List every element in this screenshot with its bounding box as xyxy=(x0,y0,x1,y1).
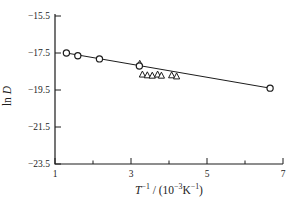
arrhenius-plot-figure: −15.5−17.5−19.5−21.5−23.51357 ln D T−1 /… xyxy=(0,0,291,208)
y-axis-tick-label: −21.5 xyxy=(28,122,50,132)
x-axis-tick-label: 3 xyxy=(129,169,134,179)
y-axis-tick-label: −15.5 xyxy=(28,11,50,21)
y-axis-title: ln D xyxy=(1,66,13,126)
axes-spine xyxy=(55,14,283,164)
data-point-circle xyxy=(136,63,142,69)
x-axis-tick-label: 5 xyxy=(205,169,210,179)
y-axis-title-part: D xyxy=(1,86,13,94)
y-axis-tick-label: −17.5 xyxy=(28,48,50,58)
data-point-circle xyxy=(96,56,102,62)
y-axis-title-part: ln xyxy=(1,94,13,106)
x-axis-tick-label: 7 xyxy=(281,169,286,179)
chart-canvas: −15.5−17.5−19.5−21.5−23.51357 xyxy=(0,0,291,208)
x-axis-title-part: K xyxy=(182,184,190,196)
x-axis-title-part: −1 xyxy=(142,182,150,191)
data-point-triangle xyxy=(169,72,175,78)
y-axis-tick-label: −19.5 xyxy=(28,85,50,95)
data-point-triangle xyxy=(174,73,180,79)
x-axis-tick-label: 1 xyxy=(53,169,58,179)
x-axis-title-part: −1 xyxy=(191,182,199,191)
data-point-circle xyxy=(75,53,81,59)
y-axis-tick-label: −23.5 xyxy=(28,159,50,169)
x-axis-title-part: ) xyxy=(199,184,203,196)
data-point-circle xyxy=(63,50,69,56)
x-axis-title: T−1 / (10−3K−1) xyxy=(55,182,283,196)
data-point-circle xyxy=(267,85,273,91)
x-axis-title-part: / (10 xyxy=(150,184,174,196)
